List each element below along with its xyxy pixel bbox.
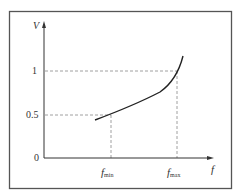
x-axis-arrow-icon — [207, 156, 214, 160]
x-axis-label: f — [211, 163, 216, 175]
x-tick-fmax: fmax — [167, 166, 180, 178]
y-axis-label: V — [33, 20, 41, 31]
x-tick-fmin: fmin — [101, 166, 113, 178]
diagram: V 1 0.5 0 fmin fmax f — [0, 0, 240, 194]
y-tick-0-5: 0.5 — [26, 109, 39, 120]
v-f-curve — [95, 56, 183, 120]
origin-label: 0 — [34, 152, 39, 163]
frame-border — [10, 12, 232, 189]
y-tick-1: 1 — [32, 65, 37, 76]
y-axis-arrow-icon — [42, 21, 46, 28]
